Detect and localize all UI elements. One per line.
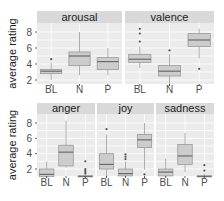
x-tick-label: N: [181, 177, 188, 188]
x-tick-label: BL: [160, 177, 173, 188]
y-tick-label: 8: [26, 118, 32, 129]
outlier-point: [84, 168, 86, 170]
facet-title: joy: [117, 102, 133, 114]
x-tick-label: P: [104, 84, 111, 95]
outlier-point: [84, 160, 86, 162]
y-tick-label: 2: [26, 75, 32, 86]
y-tick-label: 4: [26, 59, 32, 70]
x-tick-label: BL: [100, 177, 113, 188]
x-tick-label: BL: [41, 177, 54, 188]
facet-boxplot-chart: arousalBLNPvalenceBLNPangerBLNPjoyBLNPsa…: [0, 0, 224, 201]
facet-title: valence: [151, 11, 189, 23]
facet-title: arousal: [61, 11, 97, 23]
y-axis-label: average rating: [6, 110, 18, 180]
x-tick-label: P: [201, 177, 208, 188]
outlier-point: [198, 68, 200, 70]
y-tick-label: 8: [26, 27, 32, 38]
outlier-point: [143, 173, 145, 175]
y-tick-label: 4: [26, 148, 32, 159]
x-tick-label: N: [122, 177, 129, 188]
facet-anger: angerBLNP: [37, 102, 95, 189]
outlier-point: [105, 128, 107, 130]
x-tick-label: N: [166, 84, 173, 95]
y-tick-label: 2: [26, 164, 32, 175]
x-tick-label: BL: [134, 84, 147, 95]
x-tick-label: BL: [45, 84, 58, 95]
outlier-point: [203, 169, 205, 171]
facet-title: anger: [52, 102, 80, 114]
outlier-point: [124, 156, 126, 158]
facet-sadness: sadnessBLNP: [156, 102, 214, 189]
outlier-point: [124, 158, 126, 160]
facet-valence: valenceBLNP: [125, 11, 214, 96]
outlier-point: [139, 41, 141, 43]
x-tick-label: N: [62, 177, 69, 188]
x-tick-label: P: [141, 177, 148, 188]
outlier-point: [50, 58, 52, 60]
facet-arousal: arousalBLNP: [37, 11, 122, 96]
outlier-point: [203, 164, 205, 166]
x-tick-label: N: [76, 84, 83, 95]
outlier-point: [139, 28, 141, 30]
x-tick-label: P: [82, 177, 89, 188]
y-tick-label: 6: [26, 133, 32, 144]
facet-joy: joyBLNP: [97, 102, 154, 189]
x-tick-label: P: [196, 84, 203, 95]
y-axis-label: average rating: [6, 18, 18, 88]
facet-title: sadness: [165, 102, 206, 114]
outlier-point: [139, 33, 141, 35]
outlier-point: [168, 49, 170, 51]
outlier-point: [124, 153, 126, 155]
y-tick-label: 6: [26, 43, 32, 54]
